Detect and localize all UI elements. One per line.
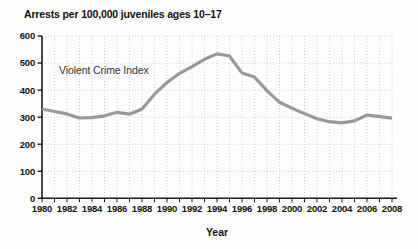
x-tick-label: 2006 xyxy=(357,203,377,214)
y-tick-label: 0 xyxy=(30,193,35,204)
y-tick-label: 400 xyxy=(20,85,35,96)
x-axis-title: Year xyxy=(42,226,392,238)
line-chart-canvas: 0100200300400500600198019821984198619881… xyxy=(0,0,418,249)
x-tick-label: 1996 xyxy=(232,203,252,214)
x-tick-label: 2008 xyxy=(382,203,402,214)
x-tick-label: 2000 xyxy=(282,203,302,214)
y-tick-label: 200 xyxy=(20,139,35,150)
x-tick-label: 1988 xyxy=(132,203,152,214)
y-tick-label: 100 xyxy=(20,166,35,177)
x-tick-label: 1986 xyxy=(107,203,127,214)
x-tick-label: 1992 xyxy=(182,203,202,214)
x-tick-label: 1990 xyxy=(157,203,177,214)
y-tick-label: 600 xyxy=(20,30,35,41)
x-tick-label: 1984 xyxy=(82,203,103,214)
chart-figure: Arrests per 100,000 juveniles ages 10–17… xyxy=(0,0,418,249)
x-tick-label: 1980 xyxy=(32,203,52,214)
series-annotation-label: Violent Crime Index xyxy=(59,64,149,76)
y-tick-label: 300 xyxy=(20,112,35,123)
y-tick-label: 500 xyxy=(20,57,35,68)
x-tick-label: 1982 xyxy=(57,203,77,214)
x-tick-label: 1994 xyxy=(207,203,228,214)
x-tick-label: 2004 xyxy=(332,203,353,214)
x-tick-label: 2002 xyxy=(307,203,327,214)
x-tick-label: 1998 xyxy=(257,203,277,214)
